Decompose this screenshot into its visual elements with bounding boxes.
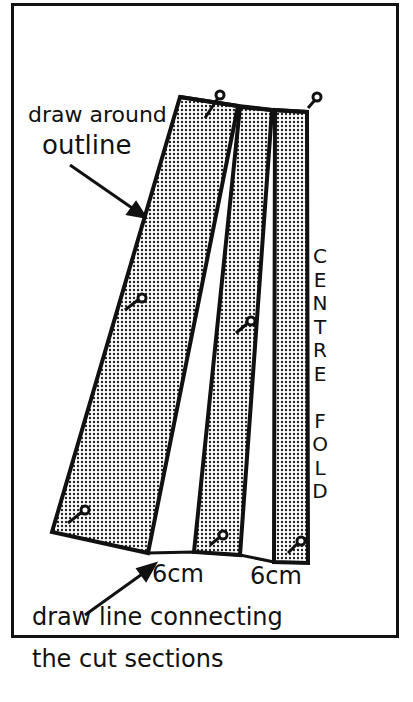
letter: F (310, 410, 330, 434)
letter-gap (310, 386, 330, 410)
spread-measure-2: 6cm (250, 562, 302, 590)
centre-panel (274, 110, 308, 563)
draw-around-label: draw around (28, 100, 167, 130)
cut-sections-label: the cut sections (32, 645, 223, 673)
letter: O (310, 433, 330, 457)
letter: R (310, 339, 330, 363)
spread-measure-1: 6cm (152, 560, 204, 588)
letter: C (310, 245, 330, 269)
letter: D (310, 480, 330, 504)
letter: T (310, 316, 330, 340)
outline-label: outline (42, 130, 132, 160)
centre-fold-label: C E N T R E F O L D (310, 245, 330, 504)
letter: E (310, 269, 330, 293)
letter: L (310, 457, 330, 481)
letter: E (310, 363, 330, 387)
letter: N (310, 292, 330, 316)
connect-label: draw line connecting (32, 603, 283, 631)
